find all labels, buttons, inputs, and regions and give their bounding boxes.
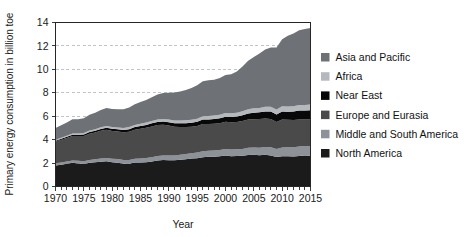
y-tick-label: 4 — [43, 133, 49, 145]
x-tick-label: 1995 — [185, 192, 209, 204]
x-axis-ticks — [56, 187, 311, 192]
x-tick-label: 1975 — [72, 192, 96, 204]
legend-item-asia-and-pacific[interactable]: Asia and Pacific — [321, 51, 410, 63]
legend-swatch-africa — [321, 72, 330, 81]
legend-label-africa: Africa — [336, 70, 363, 82]
legend-item-north-america[interactable]: North America — [321, 147, 402, 159]
legend-item-africa[interactable]: Africa — [321, 70, 363, 82]
x-axis-title: Year — [172, 218, 194, 230]
x-tick-label: 2000 — [214, 192, 238, 204]
x-tick-label: 1985 — [129, 192, 153, 204]
legend-label-asia-and-pacific: Asia and Pacific — [336, 51, 411, 63]
chart-canvas: 1970197519801985199019952000200520102015… — [0, 0, 468, 237]
legend-swatch-near-east — [321, 91, 330, 100]
x-tick-label: 2015 — [299, 192, 323, 204]
x-axis-tick-labels: 1970197519801985199019952000200520102015 — [44, 192, 323, 204]
y-axis-title: Primary energy consumption in billion to… — [4, 12, 15, 195]
legend-item-near-east[interactable]: Near East — [321, 89, 382, 101]
legend-label-europe-and-eurasia: Europe and Eurasia — [336, 109, 429, 121]
x-tick-label: 2010 — [270, 192, 294, 204]
stacked-area-chart: 1970197519801985199019952000200520102015… — [0, 0, 468, 237]
legend-item-middle-and-south-america[interactable]: Middle and South America — [321, 128, 458, 140]
legend-swatch-middle-and-south-america — [321, 130, 330, 139]
y-axis-tick-labels: 02468101214 — [37, 16, 49, 192]
legend-swatch-asia-and-pacific — [321, 53, 330, 62]
y-tick-label: 10 — [37, 63, 49, 75]
legend-label-middle-and-south-america: Middle and South America — [336, 128, 459, 140]
y-axis-ticks — [52, 23, 56, 187]
y-tick-label: 2 — [43, 157, 49, 169]
legend: Asia and PacificAfricaNear EastEurope an… — [321, 51, 458, 159]
legend-swatch-north-america — [321, 149, 330, 158]
legend-item-europe-and-eurasia[interactable]: Europe and Eurasia — [321, 109, 428, 121]
x-tick-label: 1990 — [157, 192, 181, 204]
legend-swatch-europe-and-eurasia — [321, 111, 330, 120]
y-tick-label: 8 — [43, 86, 49, 98]
y-tick-label: 0 — [43, 180, 49, 192]
legend-label-near-east: Near East — [336, 89, 383, 101]
y-tick-label: 12 — [37, 40, 49, 52]
x-tick-label: 1970 — [44, 192, 68, 204]
y-tick-label: 14 — [37, 16, 49, 28]
legend-label-north-america: North America — [336, 147, 403, 159]
y-tick-label: 6 — [43, 110, 49, 122]
x-tick-label: 1980 — [100, 192, 124, 204]
x-tick-label: 2005 — [242, 192, 266, 204]
area-bands — [56, 28, 311, 186]
